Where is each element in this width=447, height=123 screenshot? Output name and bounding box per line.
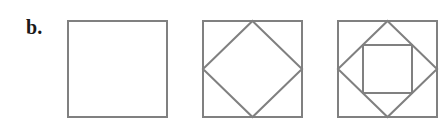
figure-3-inner-square — [363, 45, 412, 93]
figure-1-group — [68, 21, 167, 117]
geometry-diagram — [0, 0, 447, 123]
figure-panel-b: b. — [0, 0, 447, 123]
figure-3-inscribed-diamond — [338, 21, 437, 117]
figure-1-outer-square — [68, 21, 167, 117]
figure-3-outer-square — [338, 21, 437, 117]
figure-3-group — [338, 21, 437, 117]
figure-2-outer-square — [203, 21, 302, 117]
figure-2-group — [203, 21, 302, 117]
figure-2-inscribed-diamond — [203, 21, 302, 117]
